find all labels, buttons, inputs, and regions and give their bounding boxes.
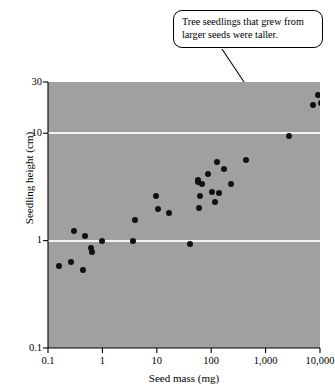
data-point: [286, 133, 292, 139]
scatter-plot-figure: Tree seedlings that grew from larger see…: [0, 0, 335, 392]
y-tick-label: 0.1: [2, 343, 42, 354]
x-tick-label: 10: [127, 355, 187, 366]
x-tick-label: 1,000: [236, 355, 296, 366]
y-tick-label: 30: [2, 77, 42, 88]
y-tick-label: 1: [2, 235, 42, 246]
callout-text: Tree seedlings that grew from larger see…: [182, 16, 315, 41]
data-point: [196, 205, 202, 211]
gridline: [48, 240, 320, 242]
x-tick-label: 10,000: [290, 355, 335, 366]
data-point: [99, 238, 105, 244]
data-point: [205, 171, 211, 177]
data-point: [89, 249, 95, 255]
data-point: [155, 206, 161, 212]
y-tick: 0.1: [0, 343, 42, 354]
y-tick: 10: [0, 128, 42, 139]
data-point: [310, 102, 316, 108]
data-point: [153, 193, 159, 199]
data-point: [199, 181, 205, 187]
data-point: [318, 100, 320, 106]
x-axis-title: Seed mass (mg): [48, 372, 320, 384]
plot-area: [48, 82, 320, 348]
data-point: [221, 166, 227, 172]
data-point: [209, 189, 215, 195]
data-point: [197, 193, 203, 199]
data-point: [130, 238, 136, 244]
data-point: [56, 263, 62, 269]
gridline: [48, 132, 320, 134]
data-point: [80, 267, 86, 273]
data-point: [228, 181, 234, 187]
y-tick: 30: [0, 77, 42, 88]
data-point: [187, 241, 193, 247]
y-tick-label: 10: [2, 128, 42, 139]
x-tick-label: 0.1: [18, 355, 78, 366]
data-point: [243, 157, 249, 163]
x-tick-label: 100: [181, 355, 241, 366]
data-point: [71, 228, 77, 234]
x-tick-label: 1: [72, 355, 132, 366]
data-point: [132, 217, 138, 223]
callout-box: Tree seedlings that grew from larger see…: [173, 10, 323, 48]
data-point: [315, 92, 321, 98]
y-axis-title: Seedling height (cm): [23, 88, 35, 268]
data-point: [68, 259, 74, 265]
data-point: [212, 199, 218, 205]
data-point: [166, 210, 172, 216]
y-tick: 1: [0, 235, 42, 246]
data-point: [216, 190, 222, 196]
data-point: [214, 159, 220, 165]
data-point: [82, 233, 88, 239]
